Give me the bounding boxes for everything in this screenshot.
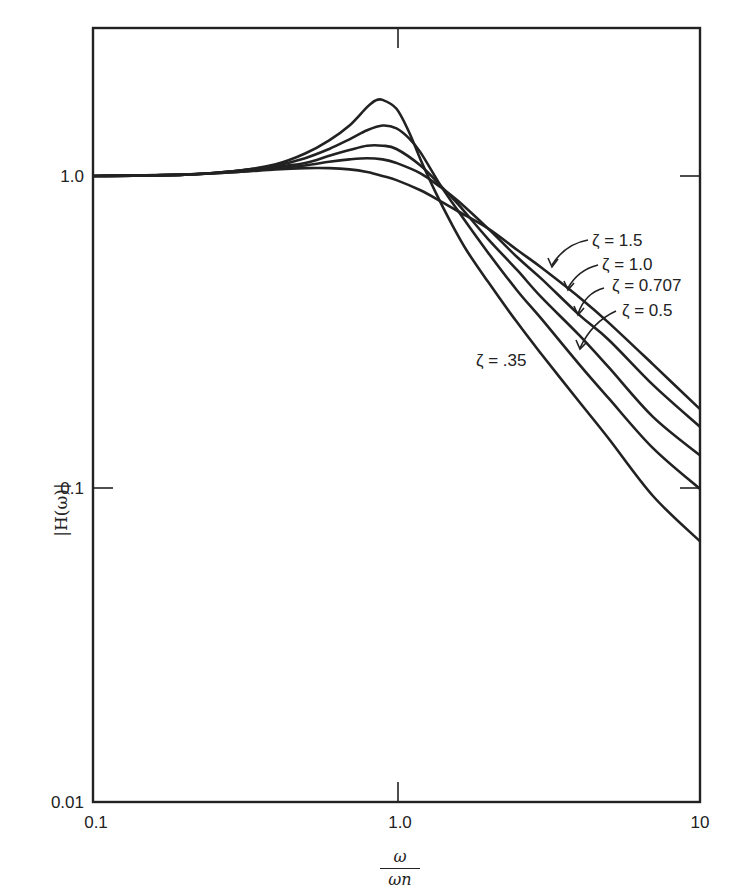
- chart-canvas: 1.0 0.1 0.01 0.1 1.0 10 ζ = 1.5 ζ = 1.0 …: [0, 0, 740, 890]
- plot-frame: [93, 28, 700, 802]
- label-zeta-0.707: ζ = 0.707: [612, 276, 681, 295]
- x-tick-label: 10: [691, 813, 710, 832]
- curve-series-4: [93, 168, 700, 409]
- x-tick-label: 1.0: [388, 813, 412, 832]
- x-tick-label: 0.1: [84, 813, 108, 832]
- arrow-zeta-1.5: [552, 240, 588, 265]
- y-axis-label: |H(ω)|: [51, 483, 71, 536]
- fraction-bar: [380, 868, 420, 869]
- y-tick-label: 1.0: [60, 167, 84, 186]
- curve-series-3: [93, 158, 700, 427]
- x-axis-label-denominator: ωn: [370, 871, 430, 889]
- y-tick-label: 0.01: [51, 793, 84, 812]
- curve-series-2: [93, 145, 700, 455]
- label-zeta-0.5: ζ = 0.5: [622, 301, 673, 320]
- label-zeta-0.35: ζ = .35: [476, 351, 527, 370]
- label-zeta-1.0: ζ = 1.0: [602, 255, 653, 274]
- label-zeta-1.5: ζ = 1.5: [592, 231, 643, 250]
- x-axis-label-numerator: ω: [370, 848, 430, 866]
- curve-series-0: [93, 99, 700, 541]
- curves-group: [93, 99, 700, 541]
- x-axis-label: ω ωn: [370, 848, 430, 889]
